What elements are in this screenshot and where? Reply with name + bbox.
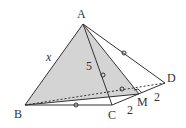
shaded-triangle-abm	[25, 24, 139, 105]
label-m: M	[137, 95, 148, 109]
label-x: x	[45, 50, 52, 64]
label-d: D	[167, 71, 176, 85]
label-a: A	[77, 7, 86, 21]
label-md-2: 2	[154, 90, 160, 104]
pyramid-diagram: A B C D M x 5 2 2	[0, 0, 186, 128]
label-b: B	[14, 107, 22, 121]
label-cm-2: 2	[127, 103, 133, 117]
label-5: 5	[86, 59, 92, 73]
label-c: C	[108, 108, 116, 122]
